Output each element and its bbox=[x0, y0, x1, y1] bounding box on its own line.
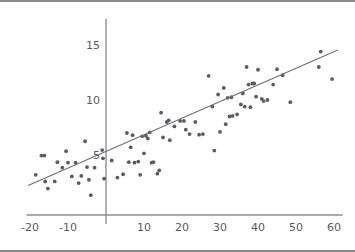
data-point bbox=[60, 166, 64, 170]
data-point bbox=[317, 65, 321, 69]
data-point bbox=[207, 74, 211, 78]
chart-figure: -20-10102030405060 51015 bbox=[0, 0, 355, 252]
data-point bbox=[77, 181, 81, 185]
x-tick-label: -20 bbox=[21, 221, 39, 234]
data-point bbox=[53, 180, 57, 184]
x-tick-label: 60 bbox=[327, 221, 341, 234]
data-point bbox=[102, 177, 106, 181]
data-point bbox=[93, 166, 97, 170]
data-point bbox=[201, 132, 205, 136]
y-tick-label: 15 bbox=[86, 39, 100, 52]
data-point bbox=[193, 120, 197, 124]
data-point bbox=[43, 154, 47, 158]
data-point bbox=[159, 111, 163, 115]
x-tick-label: -10 bbox=[59, 221, 77, 234]
data-point bbox=[127, 160, 131, 164]
data-point bbox=[222, 86, 226, 90]
data-point bbox=[249, 105, 253, 109]
data-point bbox=[121, 172, 125, 176]
data-point bbox=[133, 161, 137, 165]
data-point bbox=[319, 50, 323, 54]
data-point bbox=[116, 176, 120, 180]
data-point bbox=[138, 173, 142, 177]
data-point bbox=[275, 67, 279, 71]
x-axis-tick-labels: -20-10102030405060 bbox=[21, 221, 341, 234]
data-point bbox=[235, 112, 239, 116]
data-point bbox=[212, 149, 216, 153]
scatter-plot-canvas: -20-10102030405060 51015 bbox=[0, 2, 355, 252]
data-point bbox=[188, 132, 192, 136]
x-tick-label: 10 bbox=[137, 221, 151, 234]
data-point bbox=[101, 156, 105, 160]
data-point bbox=[182, 119, 186, 123]
data-point bbox=[252, 82, 256, 86]
x-tick-label: 50 bbox=[289, 221, 303, 234]
data-point bbox=[288, 100, 292, 104]
data-point bbox=[46, 187, 50, 191]
data-point bbox=[146, 137, 150, 141]
data-point bbox=[216, 93, 220, 97]
data-point bbox=[142, 151, 146, 155]
data-point bbox=[87, 178, 91, 182]
data-point bbox=[43, 180, 47, 184]
x-tick-label: 40 bbox=[251, 221, 265, 234]
data-point bbox=[173, 125, 177, 129]
data-point bbox=[245, 65, 249, 69]
data-point bbox=[155, 172, 159, 176]
data-point bbox=[83, 139, 87, 143]
data-point bbox=[239, 103, 243, 107]
data-point bbox=[100, 148, 104, 152]
data-point bbox=[266, 98, 270, 102]
data-point bbox=[157, 169, 161, 173]
data-point bbox=[247, 83, 251, 87]
data-point bbox=[256, 68, 260, 72]
data-point bbox=[64, 149, 68, 153]
regression-trend-line bbox=[28, 50, 338, 185]
data-point bbox=[70, 175, 74, 179]
data-point bbox=[218, 130, 222, 134]
data-point bbox=[85, 165, 89, 169]
data-point bbox=[136, 160, 140, 164]
data-point bbox=[197, 133, 201, 137]
data-point bbox=[167, 118, 171, 122]
x-tick-label: 30 bbox=[213, 221, 227, 234]
data-point bbox=[125, 131, 129, 135]
data-point bbox=[131, 133, 135, 137]
y-tick-label: 10 bbox=[86, 94, 100, 107]
data-point bbox=[152, 160, 156, 164]
data-point bbox=[224, 122, 228, 126]
data-point bbox=[34, 173, 38, 177]
data-point bbox=[89, 193, 93, 197]
data-point bbox=[231, 114, 235, 118]
data-point bbox=[110, 159, 114, 163]
data-point bbox=[55, 160, 59, 164]
data-point bbox=[161, 136, 165, 140]
data-point bbox=[243, 105, 247, 109]
data-point bbox=[330, 77, 334, 81]
x-tick-label: 20 bbox=[175, 221, 189, 234]
data-point bbox=[168, 138, 172, 142]
data-point bbox=[79, 174, 83, 178]
data-point bbox=[271, 83, 275, 87]
data-point bbox=[262, 99, 266, 103]
y-axis-tick-labels: 51015 bbox=[86, 39, 100, 162]
data-point bbox=[184, 128, 188, 132]
data-point bbox=[254, 95, 258, 99]
data-point bbox=[66, 161, 70, 165]
data-point bbox=[129, 145, 133, 149]
